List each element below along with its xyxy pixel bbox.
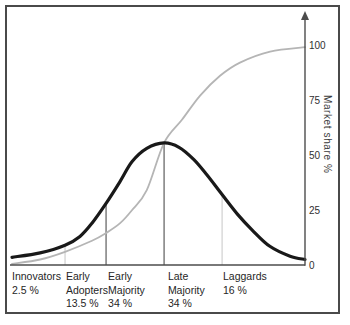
category-label-line: 2.5 % bbox=[12, 284, 61, 298]
category-label-line: Adopters bbox=[66, 284, 108, 298]
bell-curve-path bbox=[12, 143, 305, 260]
category-label: Innovators2.5 % bbox=[12, 270, 61, 297]
diffusion-of-innovations-chart: { "figure": { "y_axis_title": "Market sh… bbox=[0, 0, 350, 325]
s-curve-path bbox=[12, 47, 305, 264]
category-label-line: 16 % bbox=[223, 284, 267, 298]
y-axis-title: Market share % bbox=[322, 95, 333, 173]
category-label-line: Laggards bbox=[223, 270, 267, 284]
category-label-line: Majority bbox=[168, 284, 205, 298]
category-label: Laggards16 % bbox=[223, 270, 267, 297]
category-label-line: 34 % bbox=[108, 297, 145, 311]
category-label: LateMajority34 % bbox=[168, 270, 205, 311]
category-label-line: Early bbox=[66, 270, 108, 284]
y-tick-label: 0 bbox=[309, 260, 315, 271]
category-label-line: Majority bbox=[108, 284, 145, 298]
category-label-line: Late bbox=[168, 270, 205, 284]
category-label: EarlyAdopters13.5 % bbox=[66, 270, 108, 311]
segment-boundaries bbox=[65, 143, 222, 265]
y-tick-label: 100 bbox=[309, 40, 326, 51]
curves bbox=[12, 47, 305, 264]
y-tick-label: 75 bbox=[309, 95, 320, 106]
category-label-line: 34 % bbox=[168, 297, 205, 311]
category-label-line: 13.5 % bbox=[66, 297, 108, 311]
category-label-line: Early bbox=[108, 270, 145, 284]
y-axis-arrow-icon bbox=[301, 11, 309, 20]
category-label-line: Innovators bbox=[12, 270, 61, 284]
category-label: EarlyMajority34 % bbox=[108, 270, 145, 311]
y-tick-label: 25 bbox=[309, 205, 320, 216]
y-tick-label: 50 bbox=[309, 150, 320, 161]
